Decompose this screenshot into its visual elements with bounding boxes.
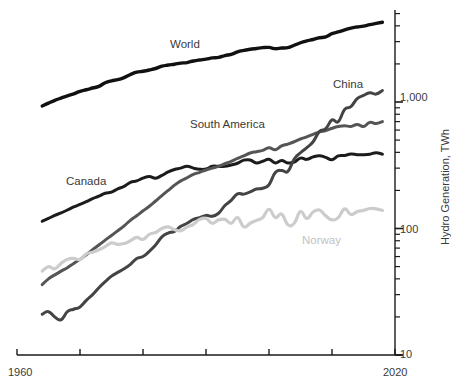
- series-label-china: China: [333, 78, 363, 90]
- series-label-world: World: [170, 38, 200, 50]
- y-tick-label-100: 100: [400, 224, 418, 235]
- hydro-generation-chart: 1,000 100 10 1960 2020 Hydro Generation,…: [0, 0, 451, 384]
- series-line-world: [42, 22, 382, 106]
- series-label-south-america: South America: [190, 118, 265, 130]
- y-tick-label-1000: 1,000: [400, 92, 428, 103]
- x-tick-label-end: 2020: [383, 367, 407, 378]
- series-label-norway: Norway: [302, 234, 341, 246]
- chart-plot-area: [0, 0, 451, 384]
- series-group: [42, 22, 382, 320]
- y-axis-title: Hydro Generation, TWh: [440, 129, 451, 245]
- series-line-canada: [42, 153, 382, 222]
- x-tick-label-start: 1960: [8, 367, 32, 378]
- series-line-south-america: [42, 122, 382, 285]
- series-label-canada: Canada: [66, 175, 106, 187]
- y-tick-label-10: 10: [400, 349, 412, 360]
